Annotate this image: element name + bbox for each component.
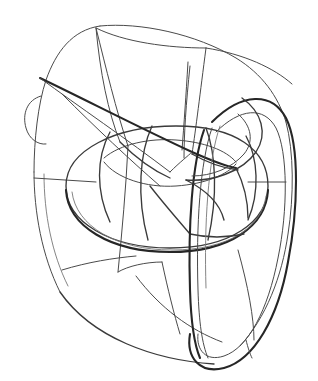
background xyxy=(0,0,318,381)
drawing-canvas xyxy=(0,0,318,381)
torus-line-drawing xyxy=(0,0,318,381)
